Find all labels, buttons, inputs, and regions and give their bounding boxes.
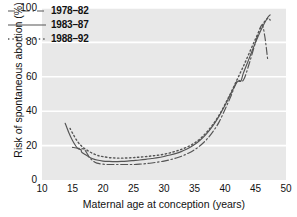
series-line-1 [65, 15, 270, 162]
y-axis-title: Risk of spontaneous abortion (%) [12, 0, 24, 165]
legend-label-0: 1978–82 [51, 5, 89, 16]
spontaneous-abortion-risk-chart: 1978–82 1983–87 1988–92 020406080100 101… [0, 0, 297, 217]
series-lines [65, 15, 270, 165]
x-tick-label-8: 50 [273, 183, 297, 194]
x-tick-label-1: 15 [60, 183, 86, 194]
x-tick-label-6: 40 [212, 183, 238, 194]
series-line-2 [70, 18, 270, 158]
x-tick-label-7: 45 [243, 183, 269, 194]
x-tick-label-2: 20 [90, 183, 116, 194]
x-tick-label-3: 25 [121, 183, 147, 194]
x-tick-label-0: 10 [29, 183, 55, 194]
x-tick-label-5: 35 [182, 183, 208, 194]
x-axis-title: Maternal age at conception (years) [42, 198, 286, 210]
legend-label-1: 1983–87 [51, 19, 89, 30]
legend-label-2: 1988–92 [51, 33, 89, 44]
x-tick-label-4: 30 [151, 183, 177, 194]
series-line-0 [73, 25, 268, 164]
